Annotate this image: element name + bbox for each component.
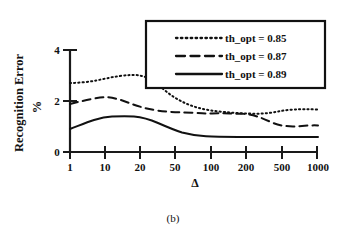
x-tick-label-100: 100 [203,161,220,173]
y-tick-label-0: 0 [54,146,60,158]
legend: th_opt = 0.85 th_opt = 0.87 th_opt = 0.8… [146,21,325,88]
y-tick-label-2: 2 [54,95,60,107]
x-tick-labels: 1 10 20 50 100 200 500 1000 [67,161,329,173]
x-axis-title: Δ [191,176,199,190]
legend-label-th-087: th_opt = 0.87 [225,50,287,62]
x-tick-label-10: 10 [100,161,112,173]
x-tick-label-500: 500 [274,161,291,173]
series-curve-th-089 [70,116,318,137]
x-tick-label-50: 50 [170,161,182,173]
chart-svg: 0 2 4 1 10 20 50 100 200 500 1000 Δ Reco… [0,0,347,233]
y-axis-title: Recognition Error [12,54,26,152]
x-tick-label-1: 1 [67,161,73,173]
figure-panel: 0 2 4 1 10 20 50 100 200 500 1000 Δ Reco… [0,0,347,233]
x-tick-label-1000: 1000 [307,161,330,173]
y-tick-labels: 0 2 4 [54,44,60,158]
x-tick-label-200: 200 [238,161,255,173]
series-curve-th-087 [70,97,318,126]
y-axis-unit: % [30,101,44,114]
figure-caption: (b) [167,212,180,225]
x-tick-label-20: 20 [135,161,147,173]
legend-label-th-089: th_opt = 0.89 [225,68,287,80]
y-tick-label-4: 4 [54,44,60,56]
legend-label-th-085: th_opt = 0.85 [225,32,287,44]
